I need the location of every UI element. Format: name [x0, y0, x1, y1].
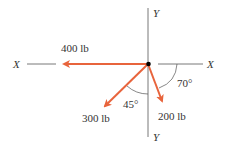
force-label-400lb: 400 lb	[61, 42, 89, 54]
angle-label-70: 70°	[177, 77, 192, 89]
angle-arc-45	[127, 86, 148, 94]
force-arrow-200lb	[148, 64, 162, 101]
y-axis-top-label: Y	[153, 7, 161, 19]
force-label-300lb: 300 lb	[82, 112, 110, 124]
x-axis-left-label: X	[12, 58, 21, 70]
angle-arc-70	[159, 64, 177, 88]
force-label-200lb: 200 lb	[158, 110, 186, 122]
angle-label-45: 45°	[123, 98, 138, 110]
forces: 400 lb 300 lb 200 lb	[61, 42, 186, 124]
axes: X X Y Y	[12, 7, 215, 143]
force-diagram: X X Y Y 400 lb 300 lb 200 lb 45° 70°	[0, 0, 228, 151]
origin-point	[146, 62, 151, 67]
y-axis-bottom-label: Y	[153, 131, 161, 143]
x-axis-right-label: X	[206, 58, 215, 70]
